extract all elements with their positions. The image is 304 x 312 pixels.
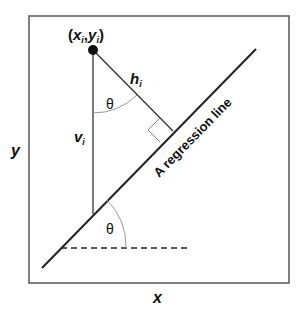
regression-diagram: (xi,yi) hi vi θ θ A regression line y x (0, 0, 304, 312)
v-label: vi (74, 128, 85, 147)
data-point (88, 45, 98, 55)
theta-label-top: θ (106, 96, 114, 112)
point-label: (xi,yi) (68, 26, 104, 45)
x-axis-label: x (152, 289, 163, 306)
right-angle-marker (148, 118, 160, 142)
regression-line (42, 49, 256, 268)
theta-arc-top (93, 95, 137, 113)
y-axis-label: y (10, 142, 21, 159)
regression-line-label: A regression line (150, 95, 234, 181)
h-label: hi (130, 70, 142, 89)
theta-label-bottom: θ (106, 221, 114, 237)
diagram-svg: (xi,yi) hi vi θ θ A regression line y x (0, 0, 304, 312)
perpendicular-distance-line (93, 50, 173, 131)
